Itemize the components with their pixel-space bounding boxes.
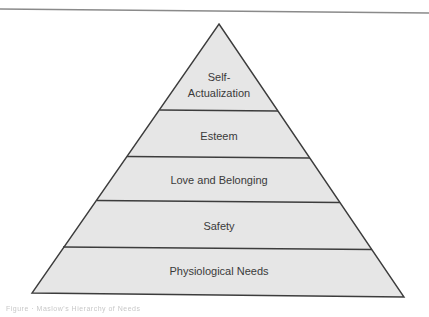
pyramid-shape [32,24,404,297]
level-physiological-needs: Physiological Needs [169,265,269,277]
pyramid-diagram: Self- Actualization Esteem Love and Belo… [0,0,429,317]
level-label-line: Self- [208,71,231,83]
top-rule [0,9,429,13]
level-love-and-belonging: Love and Belonging [170,174,267,186]
figure-caption: Figure · Maslow's Hierarchy of Needs [6,305,140,312]
level-label: Physiological Needs [169,265,269,277]
level-esteem: Esteem [200,130,237,142]
level-label-line: Actualization [188,87,250,99]
level-label: Esteem [200,130,237,142]
level-label: Safety [203,220,235,232]
level-safety: Safety [203,220,235,232]
level-label: Love and Belonging [170,174,267,186]
